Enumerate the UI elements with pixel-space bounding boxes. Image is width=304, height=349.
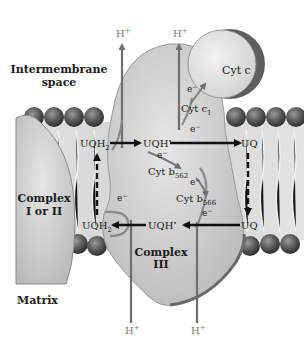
uqh-radical-top-label: UQH•: [143, 137, 172, 149]
complex-i-ii-label-2: I or II: [26, 205, 62, 218]
proton-label-top-right: H+: [173, 27, 188, 39]
uqh-radical-bottom-label: UQH•: [148, 219, 177, 231]
proton-label-bottom-left: H+: [125, 324, 140, 336]
complex-iii-label-2: III: [153, 258, 168, 271]
proton-label-bottom-right: H+: [191, 324, 206, 336]
phospholipid-heads-bottom-right: [240, 234, 300, 256]
space-label: space: [42, 76, 77, 89]
intermembrane-label: Intermembrane: [11, 63, 108, 76]
cyt-c-label: Cyt c: [222, 64, 251, 77]
q-cycle-diagram: Intermembrane space Matrix Complex I or …: [0, 0, 304, 349]
matrix-label: Matrix: [17, 294, 58, 307]
complex-i-ii-label-1: Complex: [17, 192, 71, 205]
proton-label-top-left: H+: [116, 27, 131, 39]
uq-bottom-right-label: UQ: [241, 220, 258, 231]
uq-top-right-label: UQ: [241, 138, 258, 149]
